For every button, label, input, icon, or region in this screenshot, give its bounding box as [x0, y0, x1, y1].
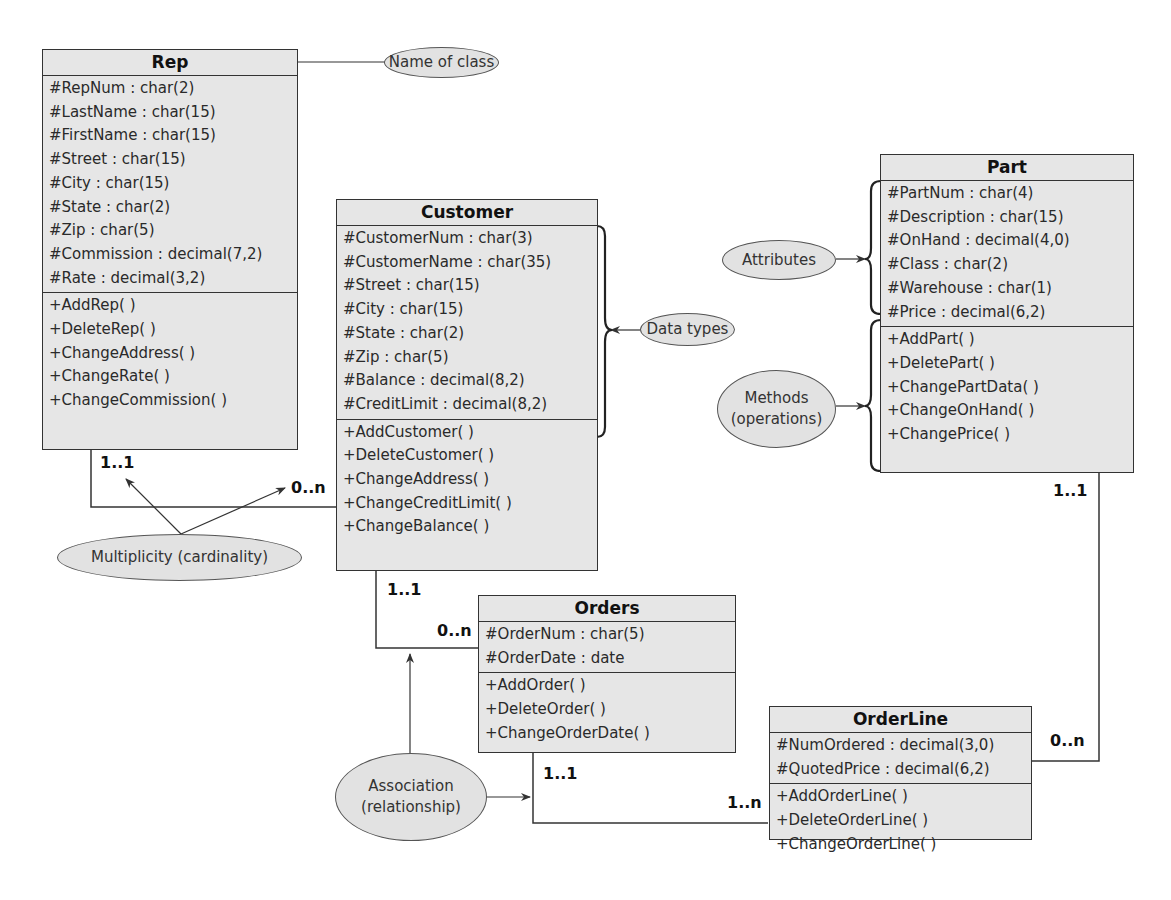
annotation-attributes: Attributes [722, 240, 836, 280]
method: +DeleteOrder( ) [485, 698, 735, 722]
method: +DeletePart( ) [887, 352, 1133, 376]
annotation-line: (relationship) [361, 798, 461, 816]
attributes-section: #NumOrdered : decimal(3,0) #QuotedPrice … [770, 733, 1031, 783]
annotation-line: Methods [744, 389, 808, 407]
attribute: #OrderDate : date [485, 647, 735, 671]
brace-part-attributes [865, 181, 881, 314]
method: +DeleteOrderLine( ) [776, 809, 1031, 833]
method: +AddCustomer( ) [343, 421, 597, 445]
method: +AddRep( ) [49, 294, 297, 318]
brace-customer-attributes [597, 226, 612, 437]
methods-section: +AddOrderLine( ) +DeleteOrderLine( ) +Ch… [770, 783, 1031, 858]
attribute: #OrderNum : char(5) [485, 623, 735, 647]
attribute: #Rate : decimal(3,2) [49, 267, 297, 291]
multiplicity-rep-side: 1..1 [100, 453, 134, 472]
attribute: #State : char(2) [343, 322, 597, 346]
methods-section: +AddRep( ) +DeleteRep( ) +ChangeAddress(… [43, 292, 297, 415]
attribute: #CustomerNum : char(3) [343, 227, 597, 251]
methods-section: +AddOrder( ) +DeleteOrder( ) +ChangeOrde… [479, 672, 735, 747]
annotation-association: Association (relationship) [335, 753, 487, 841]
annotation-line: Association [368, 777, 453, 795]
annotation-name-of-class: Name of class [384, 47, 499, 78]
attribute: #RepNum : char(2) [49, 77, 297, 101]
method: +ChangeOrderLine( ) [776, 833, 1031, 857]
attribute: #Zip : char(5) [343, 346, 597, 370]
brace-part-methods [865, 320, 881, 471]
method: +ChangeRate( ) [49, 365, 297, 389]
attribute: #Zip : char(5) [49, 219, 297, 243]
annotation-label: Data types [647, 319, 729, 340]
attribute: #Street : char(15) [343, 274, 597, 298]
annotation-line: (operations) [731, 410, 823, 428]
method: +AddOrder( ) [485, 674, 735, 698]
attribute: #City : char(15) [343, 298, 597, 322]
attribute: #State : char(2) [49, 196, 297, 220]
method: +ChangePrice( ) [887, 423, 1133, 447]
multiplicity-orders-side-orderline: 1..1 [543, 764, 577, 783]
annotation-label: Methods (operations) [731, 388, 823, 430]
attribute: #Street : char(15) [49, 148, 297, 172]
class-name: OrderLine [770, 707, 1031, 733]
multiplicity-orderline-side-part: 0..n [1050, 731, 1085, 750]
multiplicity-customer-side-rep: 0..n [291, 478, 326, 497]
multiplicity-orders-side-customer: 0..n [437, 621, 472, 640]
attribute: #CustomerName : char(35) [343, 251, 597, 275]
method: +ChangeOrderDate( ) [485, 722, 735, 746]
method: +ChangePartData( ) [887, 376, 1133, 400]
annotation-label: Association (relationship) [361, 776, 461, 818]
annotation-data-types: Data types [640, 313, 735, 346]
attribute: #City : char(15) [49, 172, 297, 196]
attribute: #Description : char(15) [887, 206, 1133, 230]
class-rep: Rep #RepNum : char(2) #LastName : char(1… [42, 49, 298, 450]
attribute: #Balance : decimal(8,2) [343, 369, 597, 393]
attributes-section: #RepNum : char(2) #LastName : char(15) #… [43, 76, 297, 292]
class-orders: Orders #OrderNum : char(5) #OrderDate : … [478, 595, 736, 753]
annotation-methods: Methods (operations) [717, 370, 836, 448]
method: +ChangeAddress( ) [343, 468, 597, 492]
class-name: Customer [337, 200, 597, 226]
arrow-multiplicity-1 [126, 479, 181, 534]
attribute: #Class : char(2) [887, 253, 1133, 277]
attribute: #Warehouse : char(1) [887, 277, 1133, 301]
attribute: #NumOrdered : decimal(3,0) [776, 734, 1031, 758]
class-name: Rep [43, 50, 297, 76]
attributes-section: #CustomerNum : char(3) #CustomerName : c… [337, 226, 597, 419]
method: +DeleteCustomer( ) [343, 444, 597, 468]
attribute: #FirstName : char(15) [49, 124, 297, 148]
attribute: #QuotedPrice : decimal(6,2) [776, 758, 1031, 782]
method: +ChangeCreditLimit( ) [343, 492, 597, 516]
methods-section: +AddPart( ) +DeletePart( ) +ChangePartDa… [881, 326, 1133, 449]
method: +AddOrderLine( ) [776, 785, 1031, 809]
annotation-label: Attributes [742, 250, 816, 271]
annotation-label: Multiplicity (cardinality) [91, 547, 268, 568]
attribute: #LastName : char(15) [49, 101, 297, 125]
association-orders-orderline [533, 752, 768, 823]
class-orderline: OrderLine #NumOrdered : decimal(3,0) #Qu… [769, 706, 1032, 840]
attribute: #Price : decimal(6,2) [887, 301, 1133, 325]
method: +DeleteRep( ) [49, 318, 297, 342]
association-part-orderline [1032, 472, 1099, 761]
class-name: Part [881, 155, 1133, 181]
attribute: #Commission : decimal(7,2) [49, 243, 297, 267]
method: +ChangeCommission( ) [49, 389, 297, 413]
arrow-multiplicity-2 [181, 488, 285, 534]
attributes-section: #PartNum : char(4) #Description : char(1… [881, 181, 1133, 326]
methods-section: +AddCustomer( ) +DeleteCustomer( ) +Chan… [337, 419, 597, 542]
method: +ChangeBalance( ) [343, 515, 597, 539]
method: +AddPart( ) [887, 328, 1133, 352]
multiplicity-customer-side-orders: 1..1 [387, 580, 421, 599]
attribute: #CreditLimit : decimal(8,2) [343, 393, 597, 417]
class-name: Orders [479, 596, 735, 622]
class-customer: Customer #CustomerNum : char(3) #Custome… [336, 199, 598, 571]
method: +ChangeOnHand( ) [887, 399, 1133, 423]
method: +ChangeAddress( ) [49, 342, 297, 366]
annotation-label: Name of class [389, 52, 494, 73]
class-part: Part #PartNum : char(4) #Description : c… [880, 154, 1134, 473]
multiplicity-orderline-side-orders: 1..n [727, 793, 762, 812]
multiplicity-part-side: 1..1 [1053, 481, 1087, 500]
attributes-section: #OrderNum : char(5) #OrderDate : date [479, 622, 735, 672]
attribute: #OnHand : decimal(4,0) [887, 229, 1133, 253]
attribute: #PartNum : char(4) [887, 182, 1133, 206]
annotation-multiplicity: Multiplicity (cardinality) [57, 534, 302, 581]
